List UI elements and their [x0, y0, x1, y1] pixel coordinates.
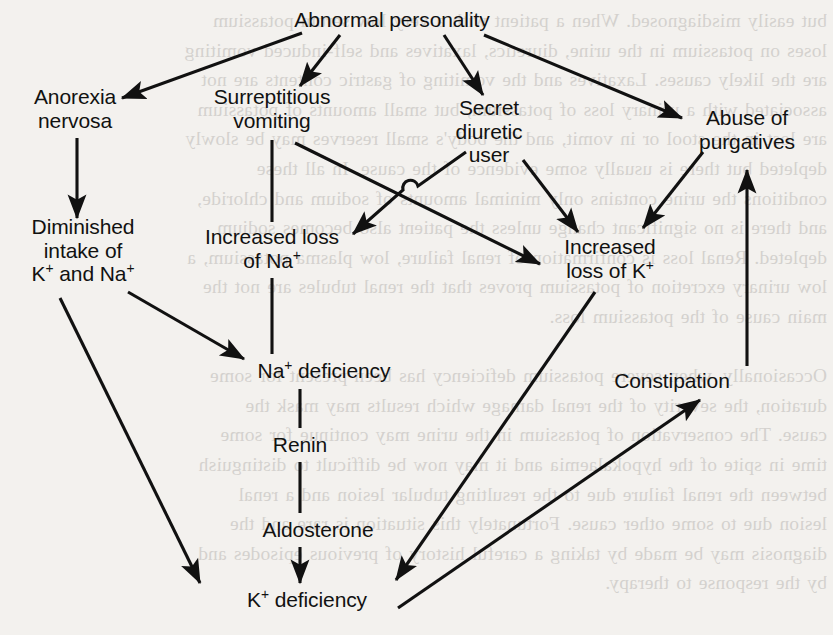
- node-aldosterone[interactable]: Aldosterone: [263, 518, 374, 542]
- edge-diminished-intake-to-k-deficiency: [60, 298, 200, 583]
- node-abuse-of-purgatives[interactable]: Abuse ofpurgatives: [699, 106, 795, 153]
- node-secret-diuretic-user[interactable]: Secretdiureticuser: [456, 96, 523, 167]
- node-renin[interactable]: Renin: [273, 433, 327, 457]
- node-na-deficiency[interactable]: Na+ deficiency: [258, 359, 391, 383]
- diagram-page: but easily misdiagnosed. When a patient …: [0, 0, 833, 635]
- edge-k-deficiency-to-constipation: [398, 400, 700, 608]
- edge-purgatives-to-loss-k: [643, 152, 703, 228]
- node-k-deficiency[interactable]: K+ deficiency: [247, 588, 367, 612]
- node-increased-loss-na[interactable]: Increased lossof Na+: [205, 225, 339, 272]
- edge-personality-to-diuretic: [444, 35, 483, 95]
- edge-diuretic-to-loss-na: [353, 152, 466, 234]
- edge-diminished-intake-to-na-deficiency: [128, 292, 244, 359]
- edge-diuretic-to-loss-k: [523, 160, 578, 232]
- node-increased-loss-k[interactable]: Increasedloss of K+: [564, 235, 655, 282]
- node-constipation[interactable]: Constipation: [614, 369, 730, 393]
- edge-personality-to-vomiting: [300, 35, 340, 86]
- node-diminished-intake[interactable]: Diminishedintake ofK+ and Na+: [32, 215, 135, 286]
- diagram-edges: [0, 0, 833, 635]
- node-surreptitious-vomiting[interactable]: Surreptitiousvomiting: [214, 85, 331, 132]
- edge-loss-k-to-k-deficiency: [396, 292, 595, 580]
- node-abnormal-personality[interactable]: Abnormal personality: [294, 8, 489, 32]
- node-anorexia-nervosa[interactable]: Anorexianervosa: [34, 85, 116, 132]
